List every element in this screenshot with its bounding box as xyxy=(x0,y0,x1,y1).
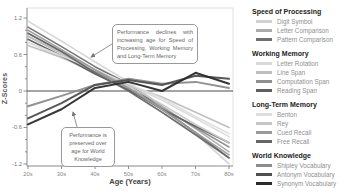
figure: 1.20.60-0.6-1.220s30s40s50s60s70s80s Z-S… xyxy=(0,0,357,194)
legend-item-label: Letter Comparison xyxy=(277,27,329,34)
legend-swatch xyxy=(256,62,272,65)
legend-group: Working MemoryLetter RotationLine SpanCo… xyxy=(244,50,357,95)
annotation-decline: Performance declines with increasing age… xyxy=(112,24,198,64)
legend-group-header: World Knowledge xyxy=(252,152,357,159)
legend-item-label: Computation Span xyxy=(277,78,329,85)
legend-swatch xyxy=(256,173,272,176)
legend-group: Speed of ProcessingDigit SymbolLetter Co… xyxy=(244,8,357,44)
y-tick-label: -1.2 xyxy=(12,161,22,167)
legend-item-label: Letter Rotation xyxy=(277,60,318,67)
legend-item: Free Recall xyxy=(256,137,357,146)
legend-swatch xyxy=(256,20,272,23)
legend-group: World KnowledgeShipley VocabularyAntonym… xyxy=(244,152,357,188)
legend: Speed of ProcessingDigit SymbolLetter Co… xyxy=(244,4,357,188)
legend-item-label: Antonym Vocabulary xyxy=(277,171,335,178)
annotation-preserved: Performance is preserved over age for Wo… xyxy=(61,127,115,167)
y-tick-label: 0.6 xyxy=(14,52,22,58)
legend-item: Shipley Vocabulary xyxy=(256,161,357,170)
legend-item-label: Cued Recall xyxy=(277,129,311,136)
legend-item: Benton xyxy=(256,110,357,119)
y-tick-label: 1.2 xyxy=(14,15,22,21)
legend-item: Computation Span xyxy=(256,77,357,86)
y-axis-label: Z-Scores xyxy=(1,59,8,119)
legend-item: Line Span xyxy=(256,68,357,77)
legend-group-header: Long-Term Memory xyxy=(252,101,357,108)
y-tick-label: -0.6 xyxy=(12,124,22,130)
legend-item: Letter Comparison xyxy=(256,26,357,35)
legend-group-header: Speed of Processing xyxy=(252,8,357,15)
legend-item-label: Synonym Vocabulary xyxy=(277,180,336,187)
legend-item-label: Free Recall xyxy=(277,138,309,145)
legend-swatch xyxy=(256,122,272,125)
legend-swatch xyxy=(256,80,272,83)
legend-swatch xyxy=(256,29,272,32)
legend-swatch xyxy=(256,182,272,185)
legend-item-label: Line Span xyxy=(277,69,305,76)
legend-swatch xyxy=(256,131,272,134)
legend-item-label: Reading Span xyxy=(277,87,317,94)
legend-swatch xyxy=(256,140,272,143)
legend-item-label: Digit Symbol xyxy=(277,18,312,25)
legend-item: Pattern Comparison xyxy=(256,35,357,44)
legend-swatch xyxy=(256,164,272,167)
legend-item: Reading Span xyxy=(256,86,357,95)
legend-group-header: Working Memory xyxy=(252,50,357,57)
legend-item-label: Benton xyxy=(277,111,297,118)
legend-item: Digit Symbol xyxy=(256,17,357,26)
legend-swatch xyxy=(256,89,272,92)
legend-item-label: Shipley Vocabulary xyxy=(277,162,331,169)
legend-item: Cued Recall xyxy=(256,128,357,137)
legend-swatch xyxy=(256,38,272,41)
legend-item: Letter Rotation xyxy=(256,59,357,68)
legend-group: Long-Term MemoryBentonReyCued RecallFree… xyxy=(244,101,357,146)
annotation-arrow-preserved xyxy=(73,112,77,127)
y-tick-label: 0 xyxy=(19,88,22,94)
legend-item: Synonym Vocabulary xyxy=(256,179,357,188)
annotation-arrow-decline xyxy=(91,44,112,57)
x-axis-label: Age (Years) xyxy=(27,177,233,186)
legend-swatch xyxy=(256,113,272,116)
legend-item: Antonym Vocabulary xyxy=(256,170,357,179)
legend-item: Rey xyxy=(256,119,357,128)
legend-swatch xyxy=(256,71,272,74)
legend-item-label: Pattern Comparison xyxy=(277,36,333,43)
legend-item-label: Rey xyxy=(277,120,288,127)
